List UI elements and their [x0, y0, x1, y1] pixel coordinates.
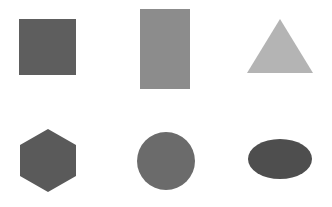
- circle-shape: [137, 132, 195, 190]
- ellipse-shape: [248, 139, 312, 179]
- shapes-canvas: [0, 0, 332, 207]
- square-shape: [19, 19, 76, 75]
- rectangle-shape: [140, 9, 190, 89]
- hexagon-shape: [20, 129, 76, 192]
- triangle-shape: [247, 19, 313, 73]
